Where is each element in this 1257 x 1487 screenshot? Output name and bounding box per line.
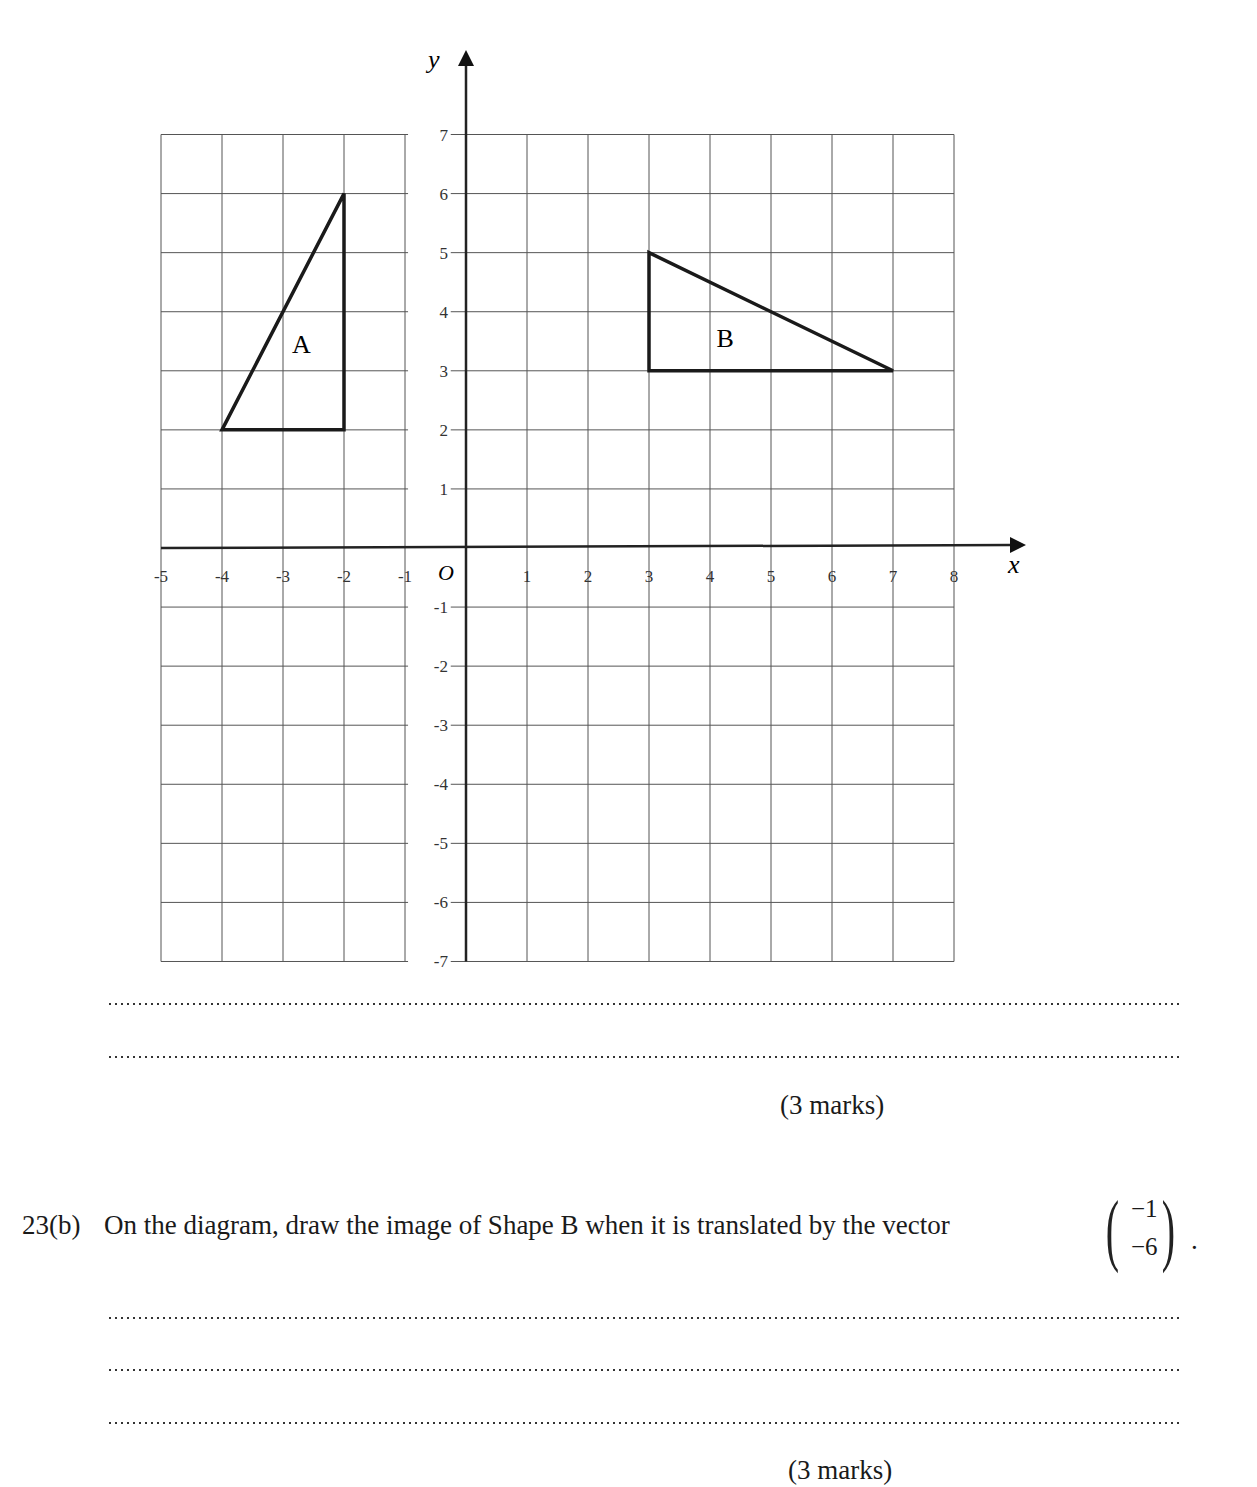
x-tick-label: -3 — [276, 567, 290, 586]
coordinate-grid: xyO -5-4-3-2-1123456787654321-1-2-3-4-5-… — [0, 0, 1257, 990]
left-paren-icon: ( — [1106, 1193, 1119, 1265]
y-axis-label: y — [425, 45, 440, 74]
y-tick-label: -5 — [434, 834, 448, 853]
y-tick-label: 4 — [440, 303, 449, 322]
answer-line-b-1[interactable] — [107, 1316, 1182, 1320]
x-tick-label: 8 — [950, 567, 959, 586]
y-tick-label: 2 — [440, 421, 449, 440]
x-tick-label: -1 — [398, 567, 412, 586]
y-axis-arrow-icon — [458, 50, 474, 66]
y-tick-label: 6 — [440, 185, 449, 204]
y-tick-label: -1 — [434, 598, 448, 617]
y-tick-label: 7 — [440, 126, 449, 145]
column-vector: ( −1 −6 ) . — [1113, 1193, 1193, 1273]
y-tick-label: -7 — [434, 952, 449, 971]
end-punctuation: . — [1191, 1225, 1198, 1256]
x-tick-label: 2 — [584, 567, 593, 586]
marks-b: (3 marks) — [788, 1455, 892, 1486]
y-tick-label: -2 — [434, 657, 448, 676]
y-tick-label: -6 — [434, 893, 448, 912]
x-tick-label: 6 — [828, 567, 837, 586]
marks-a: (3 marks) — [780, 1090, 884, 1121]
vector-top: −1 — [1131, 1195, 1158, 1223]
x-tick-label: 3 — [645, 567, 654, 586]
question-23b: 23(b)On the diagram, draw the image of S… — [22, 1210, 950, 1241]
x-tick-label: 7 — [889, 567, 898, 586]
x-axis-label: x — [1007, 550, 1020, 579]
question-number: 23(b) — [22, 1210, 104, 1241]
y-tick-label: -3 — [434, 716, 448, 735]
y-tick-label: 1 — [440, 480, 449, 499]
x-tick-label: 4 — [706, 567, 715, 586]
shape-label-a: A — [292, 330, 311, 359]
answer-line-b-2[interactable] — [107, 1368, 1182, 1372]
y-tick-label: -4 — [434, 775, 449, 794]
y-tick-label: 3 — [440, 362, 449, 381]
question-text: On the diagram, draw the image of Shape … — [104, 1210, 950, 1240]
answer-line-a-1[interactable] — [107, 1002, 1182, 1006]
x-axis — [161, 545, 1012, 548]
answer-line-b-3[interactable] — [107, 1421, 1182, 1425]
origin-label: O — [438, 560, 454, 585]
y-tick-label: 5 — [440, 244, 449, 263]
answer-line-a-2[interactable] — [107, 1055, 1182, 1059]
x-tick-label: 1 — [523, 567, 532, 586]
axes: xyO — [161, 45, 1026, 961]
shape-label-b: B — [717, 324, 734, 353]
x-tick-label: -2 — [337, 567, 351, 586]
x-tick-label: -4 — [215, 567, 230, 586]
right-paren-icon: ) — [1162, 1193, 1175, 1265]
x-tick-label: 5 — [767, 567, 776, 586]
x-tick-label: -5 — [154, 567, 168, 586]
vector-bottom: −6 — [1131, 1233, 1158, 1261]
